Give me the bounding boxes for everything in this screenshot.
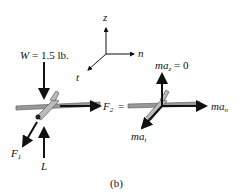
force-f1-label: F1: [11, 148, 21, 161]
coordinate-axes: [88, 28, 134, 70]
weight-label: W = 1.5 lb.: [20, 50, 69, 61]
equals-sign: =: [118, 101, 124, 112]
axis-t-label: t: [76, 72, 79, 83]
ma-n-label: man: [211, 101, 228, 114]
force-f1-arrow: [23, 122, 37, 146]
ma-z-label: maz = 0: [155, 60, 188, 73]
lift-label: L: [41, 161, 47, 172]
axis-z-label: z: [103, 12, 107, 23]
ma-t-label: mat: [131, 131, 146, 144]
ma-t-arrow: [142, 106, 162, 128]
diagram-canvas: [0, 0, 238, 194]
axis-n-label: n: [138, 48, 144, 59]
force-f2-label: F2: [103, 101, 113, 114]
figure-caption: (b): [110, 178, 123, 189]
